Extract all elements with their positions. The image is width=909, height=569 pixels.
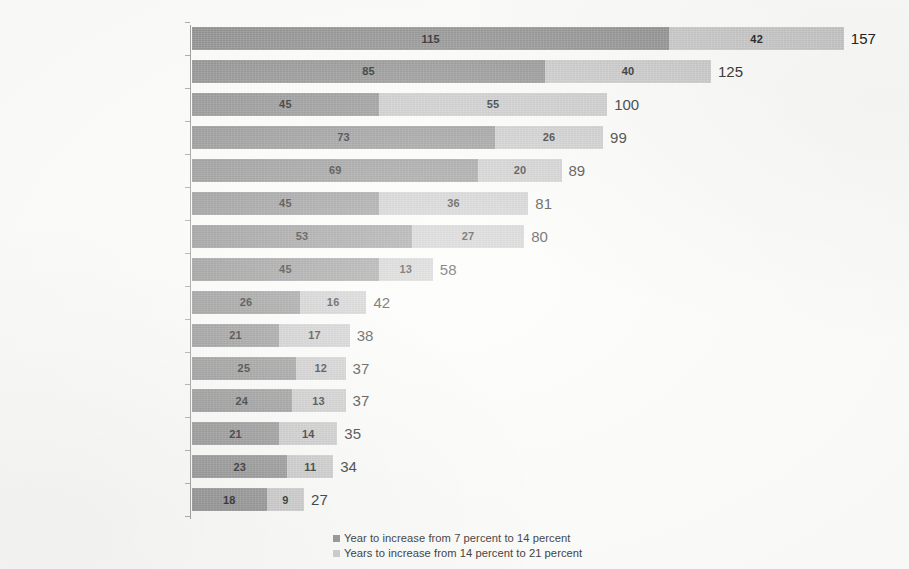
bar-value-series1: 25 bbox=[238, 362, 251, 374]
bar-value-series1: 18 bbox=[223, 494, 236, 506]
legend-label: Year to increase from 7 percent to 14 pe… bbox=[344, 531, 570, 546]
bar-segment-series1[interactable]: 25 bbox=[192, 357, 296, 380]
bar-segment-series2[interactable]: 42 bbox=[669, 27, 843, 50]
bar-value-series1: 45 bbox=[279, 98, 292, 110]
bar-segment-series1[interactable]: 85 bbox=[192, 60, 545, 83]
legend-item[interactable]: Year to increase from 7 percent to 14 pe… bbox=[333, 531, 582, 546]
bar-total-label: 37 bbox=[353, 357, 370, 380]
bar-segment-series1[interactable]: 21 bbox=[192, 324, 279, 347]
bar-segment-series1[interactable]: 23 bbox=[192, 455, 287, 478]
bar-segment-series1[interactable]: 45 bbox=[192, 93, 379, 116]
bar-segment-series2[interactable]: 16 bbox=[300, 291, 366, 314]
bar-value-series1: 53 bbox=[296, 230, 309, 242]
bar-segment-series1[interactable]: 21 bbox=[192, 422, 279, 445]
bar-segment-series2[interactable]: 27 bbox=[412, 225, 524, 248]
bar-segment-series2[interactable]: 14 bbox=[279, 422, 337, 445]
bar-segment-series2[interactable]: 9 bbox=[267, 488, 304, 511]
bar-segment-series1[interactable]: 69 bbox=[192, 159, 478, 182]
bar-segment-series2[interactable]: 12 bbox=[296, 357, 346, 380]
bar-value-series2: 55 bbox=[487, 98, 500, 110]
bar-value-series2: 42 bbox=[750, 33, 763, 45]
bar-segment-series2[interactable]: 20 bbox=[478, 159, 561, 182]
bar-segment-series1[interactable]: 45 bbox=[192, 192, 379, 215]
bar-value-series1: 73 bbox=[337, 131, 350, 143]
bar-value-series2: 11 bbox=[304, 461, 316, 473]
chart-page: France (1865-2022)11542157Sweden (1890-2… bbox=[0, 0, 909, 569]
bar-segment-series1[interactable]: 73 bbox=[192, 126, 495, 149]
bar-total-label: 89 bbox=[569, 159, 586, 182]
bar-value-series1: 24 bbox=[236, 395, 249, 407]
stacked-bar[interactable]: 2512 bbox=[192, 357, 346, 380]
bar-total-label: 81 bbox=[535, 192, 552, 215]
axis-tick bbox=[185, 55, 190, 56]
bar-value-series1: 21 bbox=[229, 428, 242, 440]
stacked-bar[interactable]: 2616 bbox=[192, 291, 366, 314]
axis-tick bbox=[185, 516, 190, 517]
stacked-bar[interactable]: 5327 bbox=[192, 225, 524, 248]
axis-tick bbox=[185, 384, 190, 385]
bar-segment-series2[interactable]: 11 bbox=[287, 455, 333, 478]
bar-value-series2: 14 bbox=[302, 428, 315, 440]
bar-total-label: 35 bbox=[344, 422, 361, 445]
stacked-bar[interactable]: 11542 bbox=[192, 27, 844, 50]
axis-tick bbox=[185, 154, 190, 155]
bar-segment-series1[interactable]: 26 bbox=[192, 291, 300, 314]
bar-value-series1: 21 bbox=[229, 329, 242, 341]
legend-swatch-icon bbox=[333, 535, 340, 542]
axis-tick bbox=[185, 187, 190, 188]
legend-item[interactable]: Years to increase from 14 percent to 21 … bbox=[333, 546, 582, 561]
axis-tick bbox=[185, 121, 190, 122]
axis-tick bbox=[185, 352, 190, 353]
bar-total-label: 37 bbox=[353, 389, 370, 412]
bar-value-series1: 45 bbox=[279, 197, 292, 209]
bar-value-series2: 20 bbox=[514, 164, 527, 176]
bar-value-series1: 115 bbox=[422, 33, 440, 45]
bar-segment-series2[interactable]: 26 bbox=[495, 126, 603, 149]
bar-segment-series2[interactable]: 13 bbox=[292, 389, 346, 412]
bar-segment-series2[interactable]: 17 bbox=[279, 324, 350, 347]
bar-segment-series1[interactable]: 53 bbox=[192, 225, 412, 248]
bar-total-label: 27 bbox=[311, 488, 328, 511]
bar-segment-series2[interactable]: 13 bbox=[379, 258, 433, 281]
bar-value-series1: 69 bbox=[329, 164, 342, 176]
bar-value-series2: 9 bbox=[282, 494, 288, 506]
bar-value-series2: 13 bbox=[399, 263, 412, 275]
stacked-bar[interactable]: 7326 bbox=[192, 126, 603, 149]
axis-tick bbox=[185, 88, 190, 89]
bar-total-label: 42 bbox=[373, 291, 390, 314]
bar-total-label: 80 bbox=[531, 225, 548, 248]
bar-segment-series2[interactable]: 40 bbox=[545, 60, 711, 83]
legend-label: Years to increase from 14 percent to 21 … bbox=[344, 546, 582, 561]
bar-value-series2: 16 bbox=[327, 296, 340, 308]
bar-total-label: 125 bbox=[718, 60, 743, 83]
stacked-bar[interactable]: 8540 bbox=[192, 60, 711, 83]
bar-value-series2: 12 bbox=[314, 362, 327, 374]
stacked-bar[interactable]: 2413 bbox=[192, 389, 346, 412]
bar-segment-series1[interactable]: 45 bbox=[192, 258, 379, 281]
stacked-bar[interactable]: 4555 bbox=[192, 93, 607, 116]
bar-segment-series1[interactable]: 18 bbox=[192, 488, 267, 511]
bar-value-series2: 26 bbox=[543, 131, 556, 143]
stacked-bar[interactable]: 189 bbox=[192, 488, 304, 511]
axis-tick bbox=[185, 286, 190, 287]
bar-total-label: 99 bbox=[610, 126, 627, 149]
bar-value-series2: 27 bbox=[462, 230, 475, 242]
axis-tick bbox=[185, 417, 190, 418]
stacked-bar[interactable]: 2114 bbox=[192, 422, 337, 445]
axis-tick bbox=[185, 450, 190, 451]
bar-value-series2: 40 bbox=[622, 65, 635, 77]
bar-value-series2: 13 bbox=[312, 395, 325, 407]
bar-total-label: 58 bbox=[440, 258, 457, 281]
bar-total-label: 157 bbox=[851, 27, 876, 50]
bar-value-series1: 85 bbox=[362, 65, 375, 77]
stacked-bar[interactable]: 6920 bbox=[192, 159, 562, 182]
bar-segment-series2[interactable]: 55 bbox=[379, 93, 607, 116]
bar-segment-series2[interactable]: 36 bbox=[379, 192, 528, 215]
stacked-bar[interactable]: 2117 bbox=[192, 324, 350, 347]
stacked-bar[interactable]: 4536 bbox=[192, 192, 528, 215]
bar-value-series1: 23 bbox=[233, 461, 246, 473]
stacked-bar[interactable]: 4513 bbox=[192, 258, 433, 281]
bar-segment-series1[interactable]: 115 bbox=[192, 27, 669, 50]
bar-segment-series1[interactable]: 24 bbox=[192, 389, 292, 412]
stacked-bar[interactable]: 2311 bbox=[192, 455, 333, 478]
